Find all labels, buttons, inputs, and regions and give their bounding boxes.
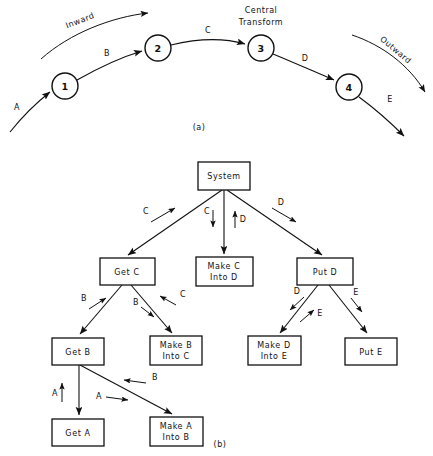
- call-get-b-make-a: [80, 365, 172, 414]
- flow-c-arrow: [171, 40, 245, 45]
- box-get-c-label: Get C: [114, 268, 139, 277]
- couple-c-down-make-c-label: C: [204, 207, 210, 216]
- couple-a-down-make-a: A: [96, 392, 128, 401]
- flow-c-label: C: [205, 26, 211, 35]
- flow-d-label: D: [302, 54, 309, 63]
- couple-d-down-make-d: D: [290, 287, 304, 310]
- box-put-e[interactable]: Put E: [345, 338, 397, 365]
- box-make-b-into-c-line1: Make B: [160, 341, 193, 350]
- box-make-b-into-c[interactable]: Make B Into C: [150, 336, 202, 365]
- central-transform-label-line1: Central: [245, 6, 278, 15]
- figure-canvas: Inward Outward Central Transform A B C D: [0, 0, 433, 456]
- box-make-a-into-b-line1: Make A: [160, 422, 193, 431]
- flow-e-arrow: [359, 97, 404, 136]
- box-make-d-into-e-line1: Make D: [257, 341, 290, 350]
- box-put-e-label: Put E: [359, 348, 383, 357]
- box-system-label: System: [207, 172, 240, 181]
- part-a-group: Inward Outward Central Transform A B C D: [10, 6, 425, 136]
- call-system-get-c: [128, 190, 222, 255]
- box-put-d[interactable]: Put D: [297, 258, 353, 285]
- flow-b-label: B: [104, 49, 110, 58]
- node-4[interactable]: 4: [336, 74, 362, 100]
- central-transform-label-line2: Transform: [238, 18, 283, 27]
- couple-a-up-get-a: A: [52, 383, 62, 402]
- couple-b-up-make-a: B: [124, 373, 158, 383]
- node-3[interactable]: 3: [248, 35, 274, 61]
- couple-a-up-get-a-label: A: [52, 389, 58, 398]
- box-get-b-label: Get B: [65, 348, 90, 357]
- box-make-c-into-d-line2: Into D: [210, 273, 238, 282]
- couple-d-down-make-d-label: D: [294, 287, 301, 296]
- couple-c-up-get-c-label: C: [143, 207, 149, 216]
- box-get-a[interactable]: Get A: [52, 419, 104, 446]
- flow-e-label: E: [387, 95, 392, 104]
- box-get-c[interactable]: Get C: [100, 258, 155, 285]
- box-system[interactable]: System: [198, 162, 250, 190]
- couple-a-down-make-a-label: A: [96, 392, 102, 401]
- box-make-c-into-d[interactable]: Make C Into D: [196, 257, 253, 286]
- box-make-c-into-d-line1: Make C: [208, 262, 241, 271]
- caption-a: (a): [193, 123, 206, 132]
- part-b-group: C C D D B B: [52, 162, 397, 449]
- flow-a-arrow: [10, 92, 50, 132]
- couple-e-up-make-d-label: E: [317, 309, 322, 318]
- couple-b-up-get-b-label: B: [81, 294, 87, 303]
- call-get-c-make-b: [131, 285, 172, 333]
- couple-d-up-make-c: D: [235, 211, 246, 228]
- couple-b-up-make-a-label: B: [152, 373, 158, 382]
- couple-d-down-put-d: D: [272, 198, 296, 222]
- flow-a-label: A: [14, 103, 20, 112]
- box-get-b[interactable]: Get B: [52, 338, 104, 365]
- couple-e-down-put-e: E: [351, 288, 362, 312]
- box-make-a-into-b[interactable]: Make A Into B: [150, 417, 203, 446]
- box-make-d-into-e-line2: Into E: [261, 352, 288, 361]
- box-put-d-label: Put D: [313, 268, 338, 277]
- node-1-label: 1: [62, 81, 69, 92]
- call-get-c-get-b: [80, 285, 122, 334]
- box-make-b-into-c-line2: Into C: [162, 352, 189, 361]
- couple-d-down-put-d-label: D: [278, 198, 285, 207]
- node-1[interactable]: 1: [52, 73, 78, 99]
- couple-c-up-get-c: C: [143, 207, 175, 222]
- couple-d-up-make-c-label: D: [240, 215, 247, 224]
- inward-label: Inward: [64, 11, 95, 30]
- couple-e-down-put-e-label: E: [353, 288, 358, 297]
- call-put-d-put-e: [329, 285, 367, 333]
- couple-c-down-make-c: C: [204, 207, 213, 227]
- couple-c-up-make-b-label: C: [180, 290, 186, 299]
- couple-b-up-get-b: B: [81, 294, 106, 309]
- node-2[interactable]: 2: [145, 35, 171, 61]
- node-3-label: 3: [258, 43, 265, 54]
- box-get-a-label: Get A: [65, 429, 90, 438]
- caption-b: (b): [214, 440, 227, 449]
- node-4-label: 4: [346, 82, 353, 93]
- couple-e-up-make-d: E: [300, 309, 323, 322]
- couple-c-up-make-b: C: [160, 290, 186, 305]
- node-2-label: 2: [155, 43, 162, 54]
- box-make-d-into-e[interactable]: Make D Into E: [248, 336, 301, 365]
- box-make-a-into-b-line2: Into B: [162, 433, 189, 442]
- couple-b-down-make-b-label: B: [133, 298, 139, 307]
